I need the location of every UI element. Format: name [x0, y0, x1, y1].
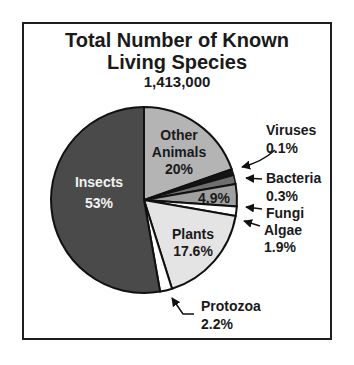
arrow-bacteria	[246, 178, 262, 179]
arrow-fungi	[246, 207, 262, 209]
label-insects-pct: 53%	[85, 195, 114, 211]
callout-protozoa-name: Protozoa	[201, 298, 261, 314]
callout-bacteria-pct: 0.3%	[266, 188, 298, 204]
pie-chart: Other Animals 20% Insects 53% 4.9% Plant…	[0, 0, 354, 365]
callout-algae-name: Algae	[264, 222, 302, 238]
label-insects-name: Insects	[75, 174, 123, 190]
callout-protozoa-pct: 2.2%	[201, 316, 233, 332]
arrow-algae	[244, 221, 260, 226]
label-plants-name: Plants	[172, 226, 214, 242]
label-other-animals-name2: Animals	[152, 144, 207, 160]
arrow-protozoa	[172, 298, 194, 314]
label-other-animals-name1: Other	[160, 127, 198, 143]
callout-viruses-name: Viruses	[266, 122, 317, 138]
callout-viruses-pct: 0.1%	[266, 140, 298, 156]
label-fungi-pct: 4.9%	[198, 190, 230, 206]
callout-bacteria-name: Bacteria	[266, 170, 321, 186]
callout-algae-pct: 1.9%	[264, 239, 296, 255]
label-other-animals-pct: 20%	[165, 161, 194, 177]
callout-fungi-name: Fungi	[266, 205, 304, 221]
label-plants-pct: 17.6%	[173, 243, 213, 259]
